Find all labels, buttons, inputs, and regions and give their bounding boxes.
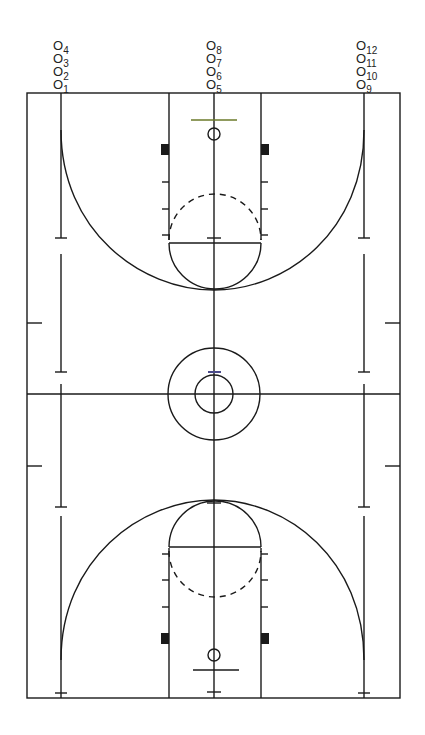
lane-block-right-bottom: [261, 633, 269, 644]
three-point-arc-top: [61, 130, 364, 290]
three-point-arc-bottom: [61, 500, 364, 660]
position-marker-9[interactable]: O: [356, 77, 366, 92]
lane-block-right-top: [261, 144, 269, 155]
ft-circle-solid-top: [169, 243, 261, 289]
position-marker-1[interactable]: O: [53, 77, 63, 92]
ft-circle-dashed-bottom: [169, 551, 261, 597]
lane-block-left-bottom: [161, 633, 169, 644]
bottom-half: [61, 500, 364, 698]
ft-circle-dashed-top: [169, 194, 261, 240]
lane-block-left-top: [161, 144, 169, 155]
ft-circle-solid-bottom: [169, 501, 261, 547]
court-diagram: O4 O3 O2 O1 O8 O7 O6 O5 O12 O11 O10 O9: [0, 0, 425, 735]
position-labels: O4 O3 O2 O1 O8 O7 O6 O5 O12 O11 O10 O9: [53, 38, 378, 95]
position-marker-5[interactable]: O: [206, 77, 216, 92]
top-half: [61, 93, 364, 290]
